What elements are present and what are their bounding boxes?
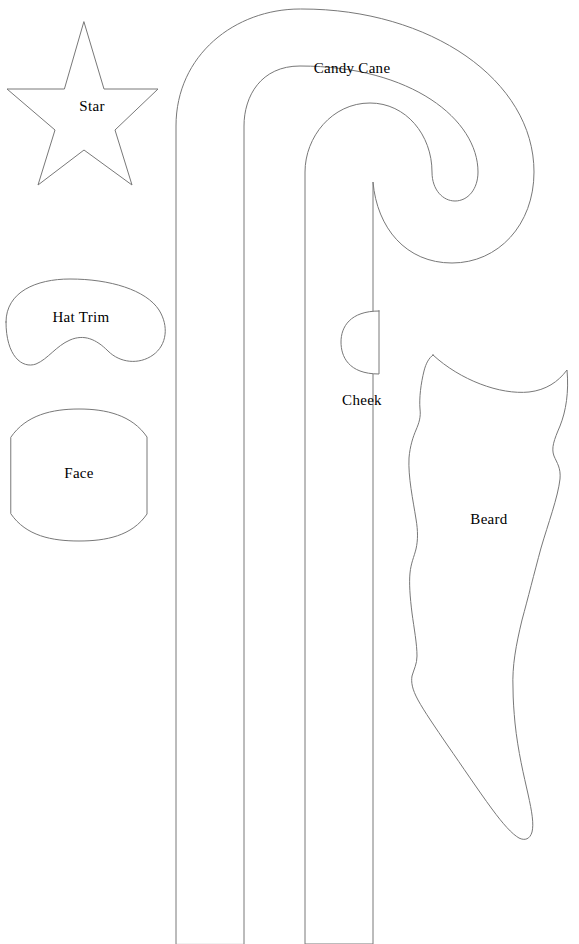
piece-label-beard: Beard [470, 511, 507, 528]
pattern-sheet: Star Hat Trim Face Candy Cane Cheek Bear… [0, 0, 579, 944]
piece-label-star: Star [79, 98, 104, 115]
piece-outline-beard[interactable] [409, 355, 568, 839]
piece-label-candy-cane: Candy Cane [314, 60, 391, 77]
piece-label-hat-trim: Hat Trim [52, 309, 109, 326]
piece-label-face: Face [64, 465, 94, 482]
piece-label-cheek: Cheek [342, 392, 382, 409]
